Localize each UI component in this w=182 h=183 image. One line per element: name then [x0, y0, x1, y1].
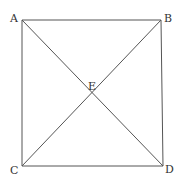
label-c: C [10, 164, 18, 177]
geometry-diagram: A B C D E [0, 0, 182, 183]
segment-bd [161, 20, 163, 166]
label-e: E [88, 80, 96, 93]
label-b: B [164, 12, 172, 25]
label-a: A [9, 12, 19, 25]
label-d: D [165, 163, 174, 176]
